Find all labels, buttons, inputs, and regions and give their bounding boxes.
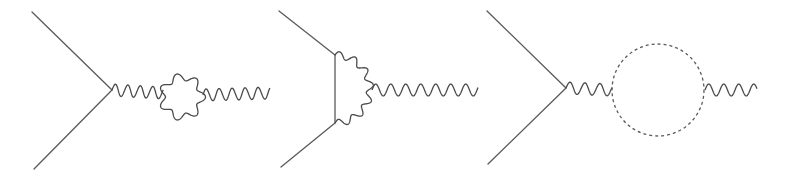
outgoing-fermion-line [488,88,566,164]
outgoing-fermion-line [281,123,335,167]
photon-propagator-in [566,82,612,96]
photon-propagator-in [112,84,163,99]
photon-propagator-out [705,84,757,96]
gluon-loop [161,74,206,120]
scalar-loop [612,44,704,136]
incoming-fermion-line [279,11,335,55]
incoming-fermion-line [487,11,566,88]
diagram-self-energy [32,12,270,169]
photon-propagator-out [203,87,270,100]
photon-propagator-out [372,84,478,96]
exchanged-photon-arc [335,52,373,125]
diagram-scalar-loop [487,11,757,164]
incoming-fermion-line [32,12,112,90]
outgoing-fermion-line [34,90,112,169]
feynman-diagrams-figure [0,0,787,179]
diagram-vertex-correction [279,11,478,167]
